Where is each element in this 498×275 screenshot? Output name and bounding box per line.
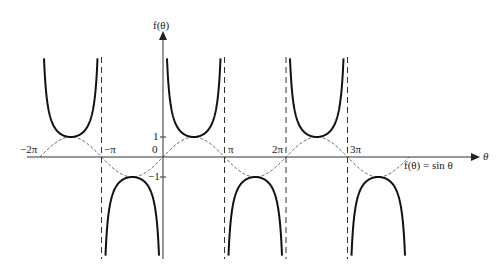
tick-label-0: 0 (152, 144, 158, 155)
x-axis-arrow-icon (471, 153, 480, 161)
tick-label-3pi: 3π (350, 144, 361, 155)
y-axis-label: f(θ) (153, 20, 169, 31)
axes (27, 31, 480, 259)
cosecant-branch (167, 58, 221, 137)
tick-label-m1: −1 (148, 171, 160, 182)
tick-label-1: 1 (153, 131, 159, 142)
tick-label-pi: π (228, 144, 234, 155)
cosecant-branch (290, 58, 344, 137)
cosecant-branch (352, 177, 406, 256)
cosecant-sine-chart (0, 0, 498, 275)
tick-label-m2pi: −2π (20, 144, 37, 155)
sine-annotation: f(θ) = sin θ (404, 160, 453, 171)
x-axis-label: θ (483, 151, 488, 162)
tick-label-mpi: −π (104, 144, 116, 155)
cosecant-branch (44, 58, 98, 137)
y-axis-arrow-icon (159, 31, 167, 40)
tick-label-2pi: 2π (272, 144, 283, 155)
asymptotes (102, 57, 348, 259)
cosecant-branch (229, 177, 283, 256)
cosecant-branch (106, 177, 160, 256)
